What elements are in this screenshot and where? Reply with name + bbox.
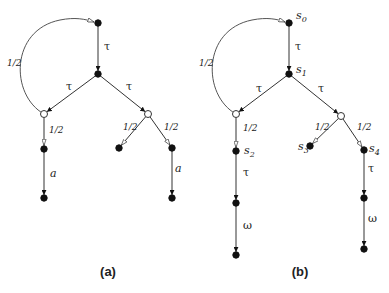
action-label: τ: [66, 80, 72, 93]
action-label: ω: [368, 212, 377, 225]
probability-label: 1/2: [199, 58, 214, 68]
diagram-a: 1/2τττ1/2a1/21/2a(a): [7, 19, 182, 279]
transition-edge: [291, 76, 338, 114]
probabilistic-state-node: [41, 111, 48, 118]
diagram-caption: (b): [292, 264, 309, 279]
action-label: τ: [295, 40, 301, 53]
transition-edge: [239, 76, 286, 112]
probability-label: 1/2: [357, 122, 372, 132]
action-label: τ: [318, 82, 324, 95]
state-node: [233, 148, 239, 154]
probabilistic-state-node: [145, 111, 152, 118]
probabilistic-state-node: [338, 113, 345, 120]
state-label: s4: [369, 142, 380, 157]
state-node: [361, 246, 367, 252]
action-label: τ: [126, 80, 132, 93]
state-node: [286, 71, 292, 77]
probabilistic-transition-diagram: 1/2τττ1/2a1/21/2a(a) 1/2τττ1/2τω1/21/2τω…: [0, 0, 389, 293]
state-label: s2: [244, 144, 255, 159]
action-label: ω: [243, 219, 252, 232]
state-label: s0: [296, 9, 307, 24]
state-label: s1: [296, 63, 307, 78]
state-node: [233, 252, 239, 258]
state-node: [286, 20, 292, 26]
state-node: [169, 145, 175, 151]
action-label: τ: [104, 40, 110, 53]
state-label: s3: [298, 140, 309, 155]
diagram-caption: (a): [100, 264, 116, 279]
probability-label: 1/2: [164, 122, 179, 132]
action-label: a: [175, 162, 182, 175]
state-node: [95, 20, 101, 26]
state-node: [116, 145, 122, 151]
action-label: τ: [368, 162, 374, 175]
diagram-b: 1/2τττ1/2τω1/21/2τωs0s1s2s3s4(b): [199, 9, 380, 279]
state-node: [169, 195, 175, 201]
action-label: τ: [256, 82, 262, 95]
loop-arrow: [212, 19, 285, 114]
probability-label: 1/2: [123, 122, 138, 132]
state-node: [95, 71, 101, 77]
loop-arrow: [20, 19, 94, 114]
transition-edge: [100, 76, 145, 112]
probability-label: 1/2: [7, 58, 22, 68]
state-node: [361, 147, 367, 153]
state-node: [233, 200, 239, 206]
state-node: [41, 195, 47, 201]
probability-label: 1/2: [243, 123, 258, 133]
action-label: a: [50, 167, 57, 180]
probabilistic-state-node: [233, 111, 240, 118]
probability-label: 1/2: [315, 122, 330, 132]
action-label: τ: [243, 166, 249, 179]
state-node: [361, 195, 367, 201]
state-node: [41, 146, 47, 152]
probability-label: 1/2: [49, 125, 64, 135]
